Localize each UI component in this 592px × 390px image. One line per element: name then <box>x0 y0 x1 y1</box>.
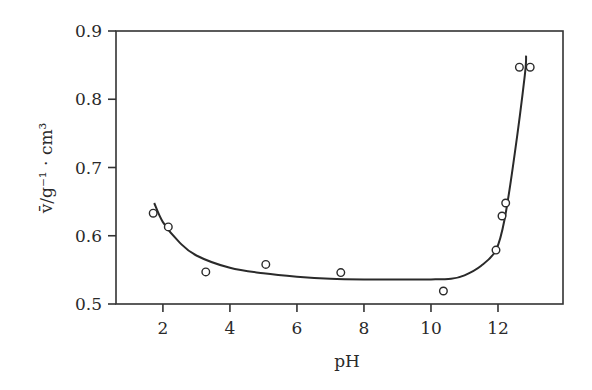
x-tick-label: 10 <box>420 318 442 338</box>
y-tick-label: 0.7 <box>75 158 102 178</box>
data-point <box>262 261 270 269</box>
y-tick-label: 0.5 <box>75 294 102 314</box>
data-point <box>165 223 173 231</box>
chart-canvas: 24681012 0.50.60.70.80.9 pH v̄/g⁻¹ · cm³ <box>0 0 592 390</box>
data-point <box>502 199 510 207</box>
data-point <box>337 269 345 277</box>
x-tick-label: 12 <box>487 318 509 338</box>
fitted-curve <box>154 56 526 280</box>
data-point <box>149 209 157 217</box>
y-axis-ticks: 0.50.60.70.80.9 <box>75 21 116 314</box>
y-axis-label: v̄/g⁻¹ · cm³ <box>36 123 56 215</box>
plot-border <box>116 31 563 304</box>
x-tick-label: 2 <box>157 318 168 338</box>
data-point <box>526 63 534 71</box>
data-point <box>440 287 448 295</box>
x-axis-label: pH <box>334 351 360 371</box>
x-tick-label: 6 <box>292 318 303 338</box>
data-point <box>498 212 506 220</box>
data-point <box>202 268 210 276</box>
x-tick-label: 4 <box>225 318 236 338</box>
x-axis-ticks: 24681012 <box>157 304 508 338</box>
data-point <box>492 246 500 254</box>
y-tick-label: 0.8 <box>75 89 102 109</box>
y-tick-label: 0.9 <box>75 21 102 41</box>
y-tick-label: 0.6 <box>75 226 102 246</box>
data-point <box>516 63 524 71</box>
x-tick-label: 8 <box>359 318 370 338</box>
plot-frame <box>116 31 563 304</box>
